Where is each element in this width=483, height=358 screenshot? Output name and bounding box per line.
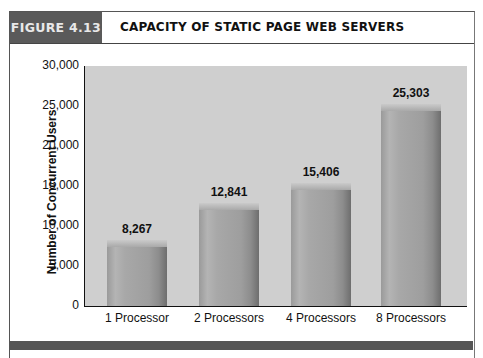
y-tick-label: 15,000: [19, 178, 79, 192]
bar-value-label: 8,267: [97, 222, 177, 236]
bar: [381, 104, 441, 306]
x-tick-label: 8 Processors: [356, 311, 466, 325]
y-tick-label: 0: [19, 298, 79, 312]
bar: [291, 183, 351, 306]
figure-number-label: FIGURE 4.13: [10, 12, 102, 43]
bottom-band: [10, 341, 473, 350]
bar-value-label: 12,841: [189, 185, 269, 199]
y-tick-label: 10,000: [19, 218, 79, 232]
bar-value-label: 15,406: [281, 165, 361, 179]
figure-header: FIGURE 4.13 CAPACITY OF STATIC PAGE WEB …: [10, 12, 474, 44]
y-tick-label: 20,000: [19, 138, 79, 152]
figure-title: CAPACITY OF STATIC PAGE WEB SERVERS: [120, 12, 404, 43]
y-tick-label: 5,000: [19, 258, 79, 272]
bar-value-label: 25,303: [371, 86, 451, 100]
y-tick-label: 25,000: [19, 98, 79, 112]
bar: [107, 240, 167, 306]
y-tick-label: 30,000: [19, 58, 79, 72]
bar: [199, 203, 259, 306]
